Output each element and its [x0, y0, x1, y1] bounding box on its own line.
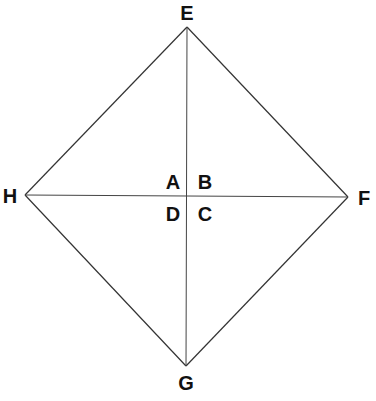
quadrant-label-a: A: [166, 171, 180, 193]
rhombus-diagram: E H F G A B D C: [0, 0, 376, 401]
quadrant-label-c: C: [198, 203, 212, 225]
vertex-label-g: G: [178, 372, 194, 394]
vertex-label-h: H: [3, 185, 17, 207]
edge-he: [25, 27, 187, 195]
vertex-label-e: E: [180, 2, 193, 24]
quadrant-label-b: B: [198, 171, 212, 193]
quadrant-label-d: D: [166, 203, 180, 225]
edge-gh: [25, 195, 186, 366]
vertex-label-f: F: [358, 187, 370, 209]
